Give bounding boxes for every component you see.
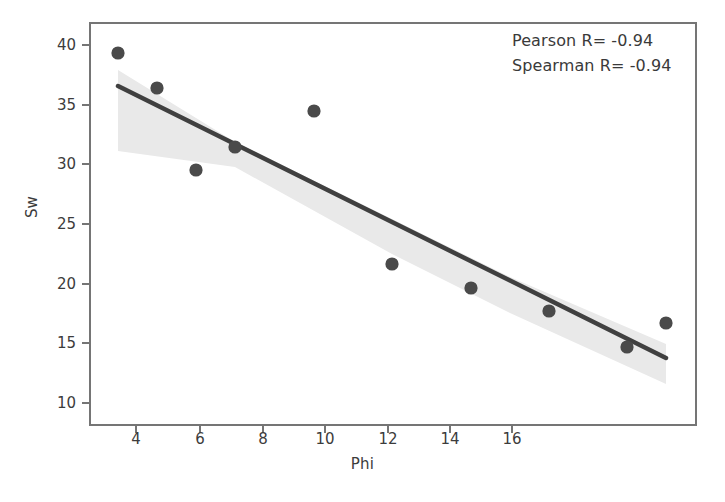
- y-tick-label: 40: [32, 36, 76, 54]
- data-point: [385, 257, 398, 270]
- x-tick-label: 6: [177, 430, 223, 448]
- x-tick-label: 14: [427, 430, 473, 448]
- data-point: [111, 46, 124, 59]
- y-tick-label: 30: [32, 155, 76, 173]
- data-point: [228, 140, 241, 153]
- spearman-annotation-text: Spearman R= -0.94: [512, 53, 672, 78]
- x-tick-label: 16: [489, 430, 535, 448]
- y-axis-label: Sw: [23, 189, 41, 225]
- x-tick-label: 4: [113, 430, 159, 448]
- correlation-annotation: Pearson R= -0.94 Spearman R= -0.94: [512, 28, 672, 78]
- data-point: [542, 304, 555, 317]
- scatter-plot-figure: 40 35 30 25 20 15 10 4 6 8 10 12 14 16 S…: [0, 0, 725, 502]
- y-tick-label: 10: [32, 394, 76, 412]
- x-axis-label: Phi: [0, 455, 725, 473]
- x-tick-label: 10: [302, 430, 348, 448]
- y-tick-marks: [82, 45, 90, 403]
- y-tick-label: 15: [32, 334, 76, 352]
- y-tick-label: 35: [32, 96, 76, 114]
- confidence-band: [118, 70, 666, 384]
- x-tick-label: 12: [365, 430, 411, 448]
- data-point: [659, 316, 672, 329]
- data-point-group: [111, 46, 672, 353]
- y-tick-label: 20: [32, 275, 76, 293]
- data-point: [620, 340, 633, 353]
- pearson-annotation-text: Pearson R= -0.94: [512, 28, 672, 53]
- data-point: [307, 104, 320, 117]
- regression-line: [118, 86, 666, 358]
- data-point: [464, 281, 477, 294]
- data-point: [189, 163, 202, 176]
- data-point: [150, 81, 163, 94]
- x-tick-label: 8: [240, 430, 286, 448]
